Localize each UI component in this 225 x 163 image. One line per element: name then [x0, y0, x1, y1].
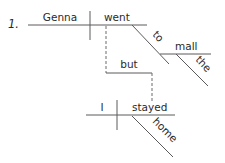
- subject-i: I: [100, 101, 103, 113]
- conjunction-but: but: [120, 58, 137, 70]
- preposition-to: to: [151, 28, 167, 44]
- adverb-home: home: [151, 115, 181, 145]
- article-the: the: [194, 53, 215, 74]
- sentence-diagram: 1. Genna went to mall the but I stayed h…: [0, 0, 225, 163]
- verb-stayed: stayed: [132, 101, 167, 113]
- item-number: 1.: [8, 17, 19, 31]
- subject-genna: Genna: [43, 11, 77, 23]
- verb-went: went: [104, 11, 130, 23]
- object-mall: mall: [175, 40, 198, 52]
